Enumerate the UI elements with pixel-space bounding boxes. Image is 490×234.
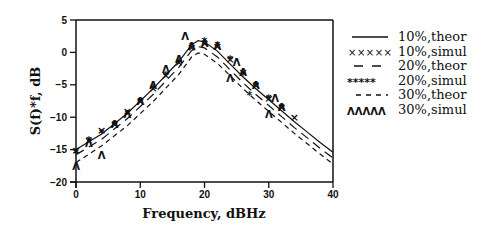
series-30-theor <box>76 53 333 164</box>
x-tick-label: 40 <box>327 189 339 200</box>
legend-item-30-simul: ΛΛΛΛΛ 30%,simul <box>346 103 490 118</box>
star-marker-icon: ***** <box>346 74 398 88</box>
legend-item-30-theor: 30%,theor <box>346 88 490 103</box>
legend: 10%,theor ××××× 10%,simul 20%,theor ****… <box>346 30 490 117</box>
svg-text:Λ: Λ <box>124 109 132 120</box>
svg-text:×××××: ××××× <box>348 47 392 58</box>
x-marker-icon: ××××× <box>346 45 398 59</box>
svg-text:Λ: Λ <box>252 80 260 91</box>
svg-text:Λ: Λ <box>226 73 234 84</box>
svg-text:×: × <box>290 111 299 124</box>
svg-text:*: * <box>73 147 79 160</box>
svg-text:Λ: Λ <box>278 102 286 113</box>
solid-line-icon <box>346 30 398 44</box>
y-tick-label: −15 <box>50 144 67 155</box>
svg-text:Λ: Λ <box>98 150 106 161</box>
svg-text:Λ: Λ <box>136 96 144 107</box>
legend-label: 10%,theor <box>398 30 466 44</box>
svg-text:Λ: Λ <box>213 41 221 52</box>
y-axis-title: S(f)*f, dB <box>28 67 43 136</box>
series-20-theor <box>76 47 333 158</box>
legend-label: 30%,simul <box>398 103 467 117</box>
legend-label: 10%,simul <box>398 45 467 59</box>
svg-text:Λ: Λ <box>175 54 183 65</box>
svg-text:*: * <box>99 127 105 140</box>
svg-text:Λ: Λ <box>265 109 273 120</box>
legend-item-20-simul: ***** 20%,simul <box>346 74 490 89</box>
svg-text:Λ: Λ <box>85 138 93 149</box>
legend-label: 30%,theor <box>398 88 466 102</box>
svg-text:*****: ***** <box>347 76 376 88</box>
legend-label: 20%,theor <box>398 59 466 73</box>
legend-item-10-theor: 10%,theor <box>346 30 490 45</box>
legend-item-20-theor: 20%,theor <box>346 59 490 74</box>
svg-text:Λ: Λ <box>72 161 80 172</box>
y-tick-label: −20 <box>50 177 67 188</box>
x-tick-label: 10 <box>135 189 147 200</box>
x-tick-label: 0 <box>73 189 79 200</box>
svg-text:Λ: Λ <box>162 64 170 75</box>
y-tick-label: 0 <box>61 47 67 58</box>
short-dash-line-icon <box>346 88 398 102</box>
legend-label: 20%,simul <box>398 74 467 88</box>
svg-text:Λ: Λ <box>149 80 157 91</box>
arch-marker-icon: ΛΛΛΛΛ <box>346 103 398 117</box>
series-layer: ××××××××××××××××××******************ΛΛΛΛ… <box>71 31 333 172</box>
y-tick-label: −5 <box>56 79 68 90</box>
svg-text:Λ: Λ <box>111 119 119 130</box>
y-tick-label: 5 <box>61 15 67 26</box>
series-30-simul: ΛΛΛΛΛΛΛΛΛΛΛΛΛΛΛΛΛΛΛΛ <box>72 31 286 172</box>
svg-text:Λ: Λ <box>188 41 196 52</box>
x-axis-ticks: 010203040 <box>73 182 339 200</box>
y-tick-label: −10 <box>50 112 67 123</box>
x-tick-label: 30 <box>263 189 275 200</box>
x-axis-title: Frequency, dBHz <box>142 206 265 221</box>
x-tick-label: 20 <box>199 189 211 200</box>
svg-text:Λ: Λ <box>201 38 209 49</box>
svg-text:ΛΛΛΛΛ: ΛΛΛΛΛ <box>347 106 386 117</box>
svg-text:Λ: Λ <box>239 67 247 78</box>
legend-item-10-simul: ××××× 10%,simul <box>346 45 490 60</box>
long-dash-line-icon <box>346 59 398 73</box>
